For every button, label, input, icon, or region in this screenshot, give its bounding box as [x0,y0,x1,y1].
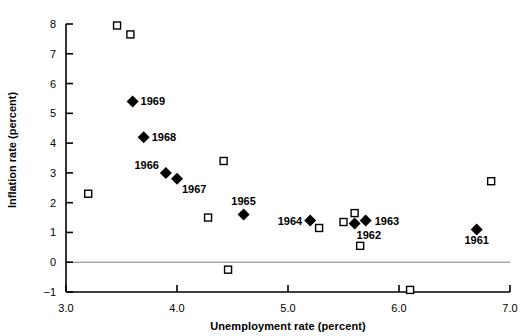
x-tick-label: 4.0 [169,302,184,314]
plot-background [0,0,532,336]
point-label-1966: 1966 [134,159,158,171]
point-label-1961: 1961 [464,234,488,246]
y-tick-label: 4 [50,137,56,149]
point-label-1964: 1964 [278,215,303,227]
y-tick-label: 8 [50,18,56,30]
y-tick-label: 5 [50,107,56,119]
y-axis-title: Inflation rate (percent) [6,92,18,208]
open-square-marker [85,190,92,197]
open-square-marker [114,22,121,29]
x-tick-label: 7.0 [502,302,517,314]
open-square-marker [340,219,347,226]
y-tick-label: 6 [50,78,56,90]
y-tick-label: 2 [50,197,56,209]
x-tick-label: 5.0 [280,302,295,314]
y-axis-title-wrapper: Inflation rate (percent) [0,0,24,300]
open-square-marker [316,224,323,231]
scatter-plot: 876543210−1 3.04.05.06.07.0 196119621963… [0,0,532,336]
y-tick-label: 0 [50,256,56,268]
open-square-marker [351,210,358,217]
x-tick-label: 3.0 [58,302,73,314]
x-axis-title: Unemployment rate (percent) [210,320,366,332]
open-square-marker [225,266,232,273]
point-label-1968: 1968 [152,131,176,143]
y-tick-label: 1 [50,226,56,238]
open-square-marker [407,286,414,293]
open-square-marker [127,31,134,38]
open-square-marker [357,242,364,249]
point-label-1965: 1965 [231,195,255,207]
y-tick-label: 3 [50,167,56,179]
point-label-1962: 1962 [357,229,381,241]
point-label-1967: 1967 [182,183,206,195]
y-tick-label: 7 [50,48,56,60]
open-square-marker [488,178,495,185]
x-tick-label: 6.0 [391,302,406,314]
open-square-marker [220,157,227,164]
chart-figure: 876543210−1 3.04.05.06.07.0 196119621963… [0,0,532,336]
open-square-marker [205,214,212,221]
point-label-1969: 1969 [141,95,165,107]
point-label-1963: 1963 [375,215,399,227]
y-tick-label: −1 [43,286,56,298]
